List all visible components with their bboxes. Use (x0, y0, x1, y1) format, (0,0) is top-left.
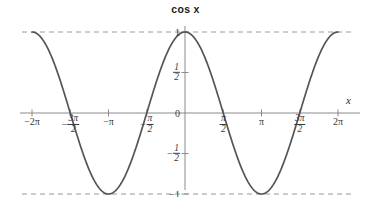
xtick-label-pi-over-2: π 2 (220, 114, 227, 134)
xtick-label-pi: π (259, 116, 264, 127)
xtick-label-neg-pi: −π (103, 116, 114, 127)
x-axis-name-label: x (346, 94, 351, 106)
xtick-label-neg-pi-over-2: − π 2 (140, 114, 153, 134)
xtick-label-neg-3pi-over-2: − 3π 2 (61, 114, 79, 134)
ytick-neghalf-fraction: 1 2 (173, 143, 180, 163)
xtick-negpi2-sign: − (140, 119, 146, 130)
xtick-negpi2-fraction: π 2 (146, 114, 153, 134)
xtick-3pi2-fraction: 3π 2 (294, 114, 306, 134)
ytick-neghalf-denominator: 2 (173, 154, 180, 164)
ytick-label-one-half: 1 2 (158, 62, 180, 82)
xtick-neg3pi2-fraction: 3π 2 (68, 114, 80, 134)
xtick-pi2-fraction: π 2 (220, 114, 227, 134)
xtick-negpi2-denominator: 2 (146, 125, 153, 135)
xtick-3pi2-denominator: 2 (296, 125, 303, 135)
xtick-pi2-denominator: 2 (220, 125, 227, 135)
ytick-half-fraction: 1 2 (173, 62, 180, 82)
ytick-label-neg-one-half: − 1 2 (158, 143, 180, 163)
ytick-half-denominator: 2 (173, 73, 180, 83)
plot-area (0, 0, 371, 197)
xtick-neg3pi2-sign: − (61, 119, 67, 130)
xtick-label-neg-2pi: −2π (24, 116, 40, 127)
ytick-label-neg-one: −1 (158, 189, 180, 198)
xtick-label-2pi: 2π (333, 116, 343, 127)
ytick-label-one: 1 (158, 27, 180, 38)
ytick-label-zero: 0 (158, 108, 180, 119)
cosine-chart-figure: cos x −2π − 3π 2 −π − π 2 π 2 π 3π (0, 0, 371, 197)
xtick-label-3pi-over-2: 3π 2 (294, 114, 306, 134)
ytick-neghalf-sign: − (167, 148, 173, 159)
xtick-neg3pi2-denominator: 2 (70, 125, 77, 135)
